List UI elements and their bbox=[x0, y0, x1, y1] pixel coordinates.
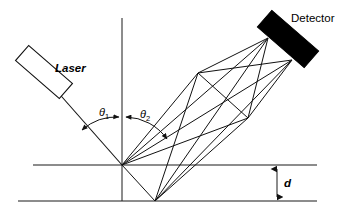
laser-label: Laser bbox=[55, 62, 86, 74]
thickness-dimension: d bbox=[277, 169, 292, 197]
optical-scattering-diagram: θ1 θ2 d Laser Detector bbox=[0, 0, 350, 213]
thickness-label: d bbox=[284, 177, 292, 189]
ray-origin-to-detector-port-a bbox=[122, 38, 268, 165]
incident-beam-line bbox=[55, 89, 122, 165]
ray-node-upper-to-node-lower bbox=[198, 73, 248, 118]
theta1-subscript: 1 bbox=[105, 112, 109, 121]
ray-node-lower-to-detector-port-b bbox=[248, 60, 292, 118]
scattering-diagram-figure: θ1 θ2 d Laser Detector bbox=[0, 0, 350, 213]
theta1-arc bbox=[82, 117, 119, 130]
detector-label: Detector bbox=[291, 12, 335, 24]
theta2-label: θ2 bbox=[140, 108, 150, 123]
ray-bottom-to-detector-port-a bbox=[155, 38, 268, 201]
ray-node-lower-to-detector-port-a bbox=[248, 38, 268, 118]
ray-origin-to-bottom-node bbox=[122, 165, 155, 201]
incident-beam-group bbox=[55, 89, 122, 165]
theta1-label: θ1 bbox=[99, 106, 109, 121]
theta2-subscript: 2 bbox=[146, 114, 150, 123]
ray-bottom-to-detector-port-b bbox=[155, 60, 292, 201]
ray-origin-to-detector-port-b bbox=[122, 60, 292, 165]
